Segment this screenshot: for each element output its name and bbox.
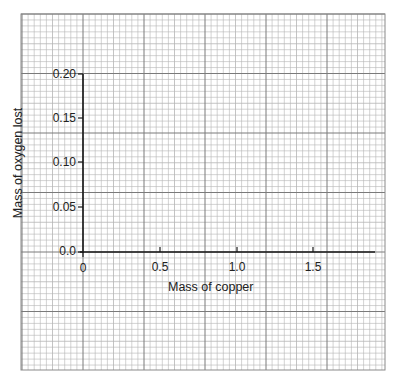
x-tick-label-0.5: 0.5 bbox=[145, 261, 175, 273]
y-tick-label-0.20: 0.20 bbox=[36, 68, 76, 80]
x-tick-label-1.0: 1.0 bbox=[222, 261, 252, 273]
x-tick-label-0: 0 bbox=[68, 262, 98, 274]
y-tick-label-0.0: 0.0 bbox=[36, 245, 76, 257]
y-tick-label-0.05: 0.05 bbox=[36, 201, 76, 213]
y-axis-title: Mass of oxygen lost bbox=[11, 103, 25, 223]
y-tick-label-0.15: 0.15 bbox=[36, 112, 76, 124]
y-tick-label-0.10: 0.10 bbox=[36, 156, 76, 168]
x-tick-label-1.5: 1.5 bbox=[298, 261, 328, 273]
graph-paper bbox=[0, 0, 399, 384]
x-axis-title: Mass of copper bbox=[168, 280, 253, 294]
